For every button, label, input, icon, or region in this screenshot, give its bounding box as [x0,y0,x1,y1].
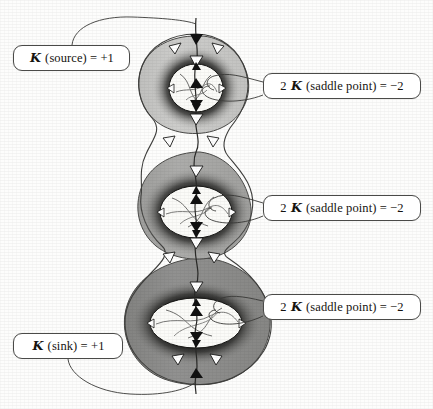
label-saddle-top-text: 2 K (saddle point) = −2 [280,78,403,94]
label-saddle-middle-text: 2 K (saddle point) = −2 [280,200,403,216]
label-sink-text: K (sink) = +1 [32,338,105,354]
label-saddle-bottom[interactable]: 2 K (saddle point) = −2 [263,294,421,320]
index-theorem-figure: K (source) = +1 2 K (saddle point) = −2 … [0,0,433,409]
label-sink[interactable]: K (sink) = +1 [13,333,123,359]
label-source[interactable]: K (source) = +1 [13,45,130,71]
label-saddle-middle[interactable]: 2 K (saddle point) = −2 [263,195,421,221]
arrow-hollow-b1 [163,252,175,263]
label-saddle-top[interactable]: 2 K (saddle point) = −2 [263,73,421,99]
label-saddle-bottom-text: 2 K (saddle point) = −2 [280,299,403,315]
label-source-text: K (source) = +1 [29,50,114,66]
